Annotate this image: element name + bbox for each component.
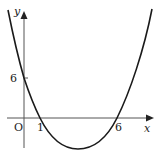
x-axis-label: x <box>144 122 151 135</box>
y-tick-label-6: 6 <box>10 72 17 85</box>
x-axis-arrow-icon <box>146 115 154 122</box>
origin-label: O <box>14 121 23 134</box>
graph: y x O 6 1 6 <box>0 0 160 157</box>
x-tick-label-1: 1 <box>37 121 44 134</box>
y-axis-label: y <box>13 5 21 18</box>
parabola-curve <box>8 9 152 149</box>
x-tick-label-6: 6 <box>115 121 122 134</box>
y-axis-arrow-icon <box>21 11 28 19</box>
